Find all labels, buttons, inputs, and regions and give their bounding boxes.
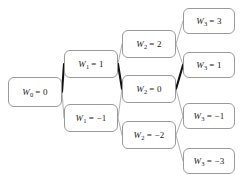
lattice-edge-n2u-n3b <box>176 44 183 65</box>
lattice-node-n1d: W1 = −1 <box>64 104 118 132</box>
lattice-edge-n2d-n3d <box>176 135 183 161</box>
lattice-node-n3b: W3 = 1 <box>183 52 235 78</box>
lattice-edge-n2d-n3c <box>176 116 183 135</box>
lattice-node-n3d: W3 = −3 <box>183 148 235 174</box>
lattice-node-n2m: W2 = 0 <box>122 75 176 103</box>
lattice-edge-n2m-n3b-highlighted <box>176 65 183 89</box>
lattice-node-n1u: W1 = 1 <box>64 50 118 78</box>
lattice-edge-n2u-n3a <box>176 21 183 44</box>
lattice-node-label: W3 = 1 <box>196 61 222 70</box>
lattice-node-label: W3 = −3 <box>194 157 225 166</box>
lattice-diagram: W0 = 0W1 = 1W1 = −1W2 = 2W2 = 0W2 = −2W3… <box>0 0 241 184</box>
lattice-node-label: W2 = −2 <box>134 131 165 140</box>
lattice-node-n0: W0 = 0 <box>8 77 62 107</box>
lattice-node-label: W3 = 3 <box>196 17 222 26</box>
lattice-edge-n2m-n3c <box>176 89 183 116</box>
lattice-node-label: W2 = 2 <box>136 40 162 49</box>
lattice-node-n2u: W2 = 2 <box>122 30 176 58</box>
lattice-node-label: W1 = 1 <box>78 60 104 69</box>
lattice-node-label: W2 = 0 <box>136 85 162 94</box>
lattice-node-n3c: W3 = −1 <box>183 103 235 129</box>
lattice-node-n3a: W3 = 3 <box>183 8 235 34</box>
lattice-node-n2d: W2 = −2 <box>122 121 176 149</box>
lattice-node-label: W1 = −1 <box>76 114 107 123</box>
lattice-node-label: W3 = −1 <box>194 112 225 121</box>
lattice-node-label: W0 = 0 <box>22 88 48 97</box>
